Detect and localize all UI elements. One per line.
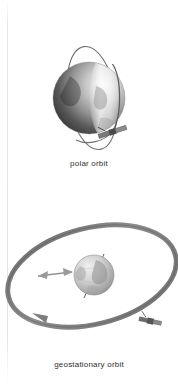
- polar-orbit-figure: polar orbit: [0, 0, 178, 192]
- solar-panel-right: [153, 320, 162, 326]
- orbit-radius-arrow: [38, 268, 73, 279]
- geostationary-orbit-caption: geostationary orbit: [0, 360, 178, 369]
- geostationary-orbit-figure: geostationary orbit: [0, 190, 178, 384]
- polar-orbit-caption: polar orbit: [0, 159, 178, 168]
- earth-globe: [53, 62, 125, 134]
- antenna: [141, 311, 147, 317]
- earth-globe: [74, 255, 114, 295]
- satellite: [139, 311, 163, 326]
- figure-page: polar orbit: [0, 0, 178, 384]
- solar-panel-left: [139, 317, 148, 323]
- geostationary-orbit-diagram: [0, 190, 178, 360]
- solar-panel-right: [115, 125, 127, 133]
- polar-orbit-diagram: [0, 0, 178, 160]
